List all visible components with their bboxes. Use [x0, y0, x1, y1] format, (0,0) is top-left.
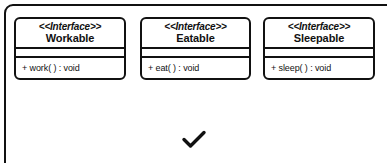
diagram-canvas: <<Interface>> Workable + work( ) : void … — [0, 0, 387, 163]
interface-header: <<Interface>> Sleepable — [265, 19, 373, 49]
check-icon — [180, 128, 208, 150]
interface-box-workable[interactable]: <<Interface>> Workable + work( ) : void — [14, 17, 126, 80]
interface-operations-compartment: + eat( ) : void — [142, 58, 249, 78]
operation-row: + work( ) : void — [22, 63, 80, 73]
interface-name: Sleepable — [294, 33, 344, 45]
interface-attributes-compartment — [265, 49, 373, 58]
interface-box-sleepable[interactable]: <<Interface>> Sleepable + sleep( ) : voi… — [263, 17, 375, 80]
interface-attributes-compartment — [142, 49, 249, 58]
interface-name: Workable — [46, 33, 95, 45]
operation-row: + sleep( ) : void — [271, 63, 331, 73]
interface-header: <<Interface>> Eatable — [142, 19, 249, 49]
interface-attributes-compartment — [16, 49, 124, 58]
operation-row: + eat( ) : void — [148, 63, 199, 73]
interface-box-eatable[interactable]: <<Interface>> Eatable + eat( ) : void — [140, 17, 251, 80]
interface-operations-compartment: + work( ) : void — [16, 58, 124, 78]
interface-name: Eatable — [176, 33, 214, 45]
interface-header: <<Interface>> Workable — [16, 19, 124, 49]
interface-operations-compartment: + sleep( ) : void — [265, 58, 373, 78]
